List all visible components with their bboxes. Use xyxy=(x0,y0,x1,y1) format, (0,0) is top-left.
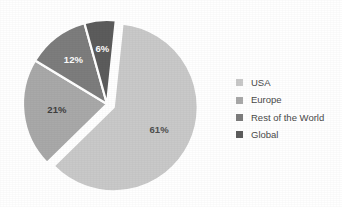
legend-item-label: Global xyxy=(251,130,278,140)
pie-chart-figure: 61%21%12%6% USAEuropeRest of the WorldGl… xyxy=(0,0,342,207)
legend-swatch-icon xyxy=(236,97,243,104)
legend-swatch-icon xyxy=(236,79,243,86)
chart-legend: USAEuropeRest of the WorldGlobal xyxy=(236,74,342,144)
legend-swatch-icon xyxy=(236,114,243,121)
legend-item-label: USA xyxy=(251,78,271,88)
legend-item-label: Europe xyxy=(251,95,282,105)
pie-plot-area: 61%21%12%6% xyxy=(0,0,222,207)
legend-swatch-icon xyxy=(236,131,243,138)
legend-item[interactable]: Rest of the World xyxy=(236,109,342,126)
legend-item[interactable]: Global xyxy=(236,126,342,143)
legend-item-label: Rest of the World xyxy=(251,113,324,123)
pie-slice-layer xyxy=(23,20,198,191)
legend-item[interactable]: USA xyxy=(236,74,342,91)
legend-item[interactable]: Europe xyxy=(236,91,342,108)
pie-svg: 61%21%12%6% xyxy=(0,0,222,207)
